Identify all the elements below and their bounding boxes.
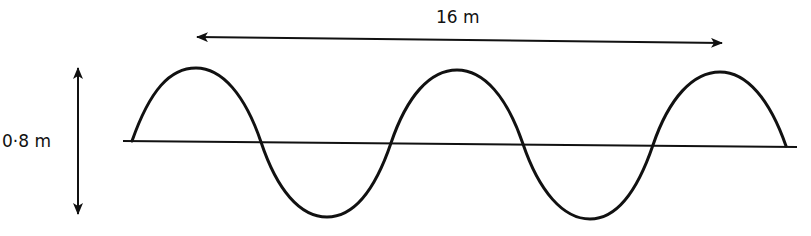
span-label: 16 m: [436, 9, 480, 26]
equilibrium-baseline: [123, 141, 797, 147]
span-double-arrow: [197, 37, 722, 43]
height-label: 0·8 m: [2, 133, 51, 150]
wave-diagram: [0, 0, 811, 236]
